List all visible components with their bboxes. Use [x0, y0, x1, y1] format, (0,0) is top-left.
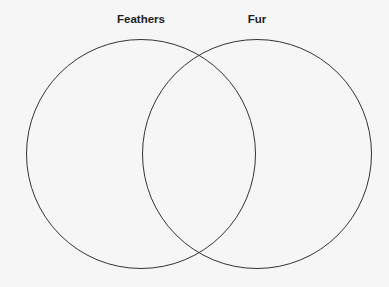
venn-diagram: Feathers Fur: [0, 0, 389, 287]
venn-circles: [0, 0, 389, 287]
circle-feathers: [27, 40, 256, 269]
circle-fur: [143, 40, 372, 269]
